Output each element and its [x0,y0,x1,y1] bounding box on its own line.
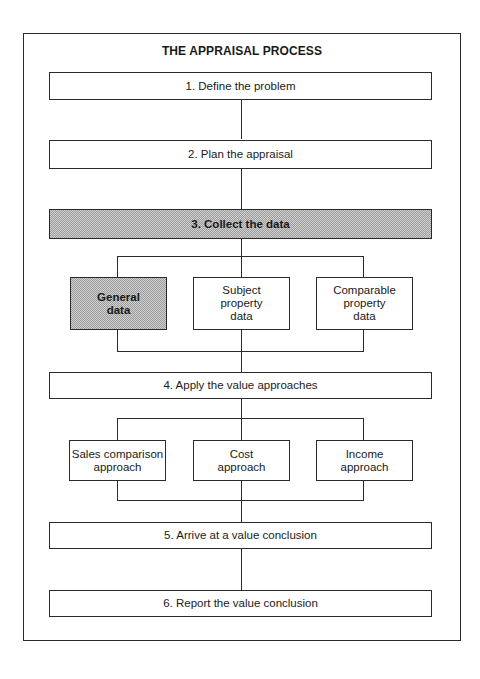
data-branch-left-top [117,256,118,277]
step-label: 1. Define the problem [186,80,296,93]
box-line: Income [346,448,384,460]
step-apply-approaches: 4. Apply the value approaches [49,372,432,399]
box-line: Sales comparison [72,448,163,460]
connector-2-3 [241,168,242,209]
step-label: 4. Apply the value approaches [163,379,317,392]
approach-branch-right-bottom [363,480,364,501]
diagram-title: THE APPRAISAL PROCESS [23,44,461,58]
box-line: approach [218,461,266,473]
box-line: data [353,310,375,322]
data-branch-top [117,256,364,257]
box-line: approach [94,461,142,473]
box-line: data [230,310,252,322]
approach-branch-right-top [363,418,364,440]
general-data-box: Generaldata [70,277,167,330]
income-approach-box: Incomeapproach [316,440,413,481]
box-line: property [220,297,262,309]
box-line: data [107,304,131,316]
data-branch-right-top [363,256,364,277]
approach-branch-left-bottom [117,480,118,501]
connector-1-2 [241,99,242,139]
step-label: 3. Collect the data [191,218,289,231]
step-label: 5. Arrive at a value conclusion [164,529,317,542]
step-define-problem: 1. Define the problem [49,72,432,100]
connector-5-6 [241,548,242,590]
box-line: Comparable [333,284,396,296]
data-branch-right-bottom [363,330,364,352]
approach-branch-left-top [117,418,118,440]
sales-comparison-approach-box: Sales comparisonapproach [69,440,166,481]
step-report-conclusion: 6. Report the value conclusion [49,590,432,617]
step-plan-appraisal: 2. Plan the appraisal [49,140,432,169]
step-label: 2. Plan the appraisal [188,148,293,161]
cost-approach-box: Costapproach [193,440,290,481]
step-arrive-conclusion: 5. Arrive at a value conclusion [49,522,432,549]
box-line: approach [341,461,389,473]
subject-property-data-box: Subjectpropertydata [193,277,290,330]
box-line: property [343,297,385,309]
box-line: General [97,291,140,303]
box-line: Cost [230,448,254,460]
approach-branch-top [117,418,364,419]
data-branch-left-bottom [117,330,118,352]
comparable-property-data-box: Comparablepropertydata [316,277,413,330]
box-line: Subject [222,284,260,296]
step-label: 6. Report the value conclusion [163,597,318,610]
data-branch-bottom [117,351,364,352]
connector-3-branch [241,238,242,277]
step-collect-data: 3. Collect the data [49,209,432,239]
approach-branch-bottom [117,500,364,501]
